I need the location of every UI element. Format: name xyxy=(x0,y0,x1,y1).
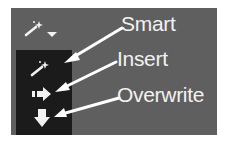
annotation-label-insert: Insert xyxy=(117,48,168,69)
annotation-label-smart: Smart xyxy=(121,13,176,34)
annotation-label-overwrite: Overwrite xyxy=(117,84,204,105)
annotation-arrows xyxy=(0,0,225,144)
